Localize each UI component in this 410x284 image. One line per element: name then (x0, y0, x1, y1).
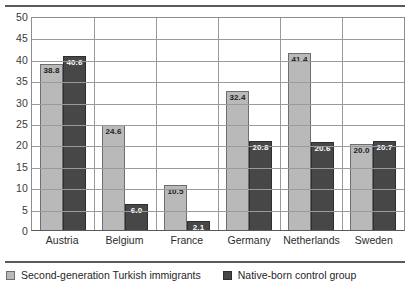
top-divider-rule (5, 5, 405, 7)
x-axis-category-label: Germany (218, 234, 280, 252)
y-axis-tick-label: 20 (0, 140, 28, 151)
bar-value-label: 32.4 (230, 94, 246, 102)
legend-label: Native-born control group (238, 270, 356, 281)
y-axis-tick-label: 35 (0, 76, 28, 87)
plot-area: 38.840.624.66.010.52.132.420.841.420.620… (31, 17, 405, 231)
bar-group: 32.420.8 (218, 18, 280, 230)
bar-value-label: 20.0 (354, 147, 370, 155)
legend-label: Second-generation Turkish immigrants (21, 270, 201, 281)
bar-chart-figure: 50454035302520151050 38.840.624.66.010.5… (0, 0, 410, 284)
bar-group: 20.020.7 (342, 18, 404, 230)
chart-legend: Second-generation Turkish immigrantsNati… (6, 268, 378, 282)
bar[interactable]: 2.1 (187, 221, 210, 230)
bar-group: 10.52.1 (156, 18, 218, 230)
bar-value-label: 2.1 (193, 224, 204, 232)
x-axis-category-label: France (156, 234, 218, 252)
y-axis-tick-label: 50 (0, 12, 28, 23)
bar-pair: 32.420.8 (218, 18, 280, 230)
category-separator-line (156, 18, 157, 230)
bar[interactable]: 20.8 (249, 141, 272, 230)
bar[interactable]: 20.7 (373, 141, 396, 230)
x-axis-category-label: Belgium (93, 234, 155, 252)
legend-item[interactable]: Second-generation Turkish immigrants (6, 270, 201, 281)
legend-divider-rule (5, 261, 405, 263)
bar-value-label: 20.8 (253, 144, 269, 152)
legend-swatch-icon (6, 271, 15, 280)
y-axis-tick-label: 10 (0, 183, 28, 194)
category-separator-line (280, 18, 281, 230)
bar-group: 38.840.6 (32, 18, 94, 230)
legend-swatch-icon (223, 271, 232, 280)
y-axis-tick-label: 5 (0, 204, 28, 215)
bar[interactable]: 20.0 (350, 144, 373, 230)
bar-group: 41.420.6 (280, 18, 342, 230)
x-axis-category-label: Austria (31, 234, 93, 252)
category-separator-line (218, 18, 219, 230)
y-axis-tick-label: 25 (0, 119, 28, 130)
category-separator-line (94, 18, 95, 230)
bar-value-label: 24.6 (106, 128, 122, 136)
y-axis-tick-label: 30 (0, 97, 28, 108)
bar[interactable]: 10.5 (164, 185, 187, 230)
bar-pair: 24.66.0 (94, 18, 156, 230)
bar[interactable]: 6.0 (125, 204, 148, 230)
bar[interactable]: 24.6 (102, 125, 125, 230)
x-axis: AustriaBelgiumFranceGermanyNetherlandsSw… (31, 234, 405, 252)
x-axis-category-label: Netherlands (280, 234, 342, 252)
y-axis-tick-label: 15 (0, 162, 28, 173)
y-axis-tick-label: 0 (0, 226, 28, 237)
y-axis: 50454035302520151050 (0, 12, 28, 258)
bar-value-label: 38.8 (44, 67, 60, 75)
bar-pair: 10.52.1 (156, 18, 218, 230)
x-axis-category-label: Sweden (343, 234, 405, 252)
bar-pair: 41.420.6 (280, 18, 342, 230)
y-axis-tick-label: 45 (0, 33, 28, 44)
bar-group: 24.66.0 (94, 18, 156, 230)
bar[interactable]: 41.4 (288, 53, 311, 230)
bar[interactable]: 32.4 (226, 91, 249, 230)
category-separator-line (342, 18, 343, 230)
bar-pair: 20.020.7 (342, 18, 404, 230)
y-axis-tick-label: 40 (0, 55, 28, 66)
bar-pair: 38.840.6 (32, 18, 94, 230)
bar[interactable]: 20.6 (311, 142, 334, 230)
legend-item[interactable]: Native-born control group (223, 270, 356, 281)
chart-body: 50454035302520151050 38.840.624.66.010.5… (0, 12, 410, 258)
